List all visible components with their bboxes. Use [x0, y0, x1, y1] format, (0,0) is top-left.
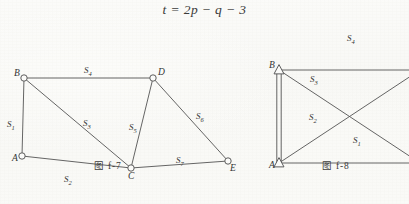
node-label-a: A	[269, 161, 275, 171]
node-label-b: B	[14, 69, 20, 79]
node-marker-a	[19, 153, 25, 159]
edge-label-subscript: 1	[12, 124, 15, 131]
edge-label-subscript: 1	[358, 140, 361, 147]
figure-f-7-graph	[0, 28, 250, 178]
edge-label-subscript: 7	[181, 160, 184, 167]
edge-label-s6: S6	[196, 112, 204, 123]
figure-f-8-graph	[252, 28, 409, 178]
edge-label-s4: S4	[347, 34, 355, 45]
figure-caption-f-7: 图 f-7	[94, 158, 121, 172]
edge-label-s3: S3	[83, 119, 91, 130]
node-marker-d	[150, 75, 156, 81]
edge-B-D	[279, 70, 409, 163]
figure-f-8: A B S1S2S3S4	[252, 28, 409, 178]
edge-label-s2: S2	[64, 175, 72, 186]
figure-caption-f-8: 图 f-8	[322, 158, 349, 172]
edge-label-s1: S1	[353, 136, 361, 147]
edge-label-s7: S7	[176, 156, 184, 167]
edge-label-s2: S2	[309, 113, 317, 124]
edge-label-subscript: 3	[315, 79, 318, 86]
node-marker-b	[274, 65, 284, 74]
edge-label-s1: S1	[7, 120, 15, 131]
node-label-b: B	[269, 61, 275, 71]
edge-D-E	[153, 78, 228, 161]
node-label-d: D	[158, 68, 165, 78]
node-label-a: A	[12, 154, 18, 164]
edge-label-subscript: 4	[352, 38, 355, 45]
edge-label-subscript: 6	[201, 116, 204, 123]
figure-f-7: A B C D E S1S2S3S4S5S6S7	[0, 28, 250, 178]
edge-label-s4: S4	[84, 66, 92, 77]
node-label-c: C	[128, 172, 134, 182]
edge-A-B	[22, 78, 24, 156]
edge-label-subscript: 3	[88, 123, 91, 130]
edge-label-s3: S3	[310, 75, 318, 86]
edge-label-subscript: 5	[134, 127, 137, 134]
edge-label-subscript: 4	[89, 70, 92, 77]
edge-label-subscript: 2	[69, 179, 72, 186]
edge-label-s5: S5	[129, 123, 137, 134]
node-label-e: E	[230, 164, 236, 174]
edge-label-subscript: 2	[314, 117, 317, 124]
node-marker-a	[274, 158, 284, 167]
edge-B-C	[24, 78, 131, 168]
equation-t-formula: t = 2p − q − 3	[0, 2, 409, 18]
edge-A-C	[279, 70, 409, 163]
node-marker-b	[21, 75, 27, 81]
